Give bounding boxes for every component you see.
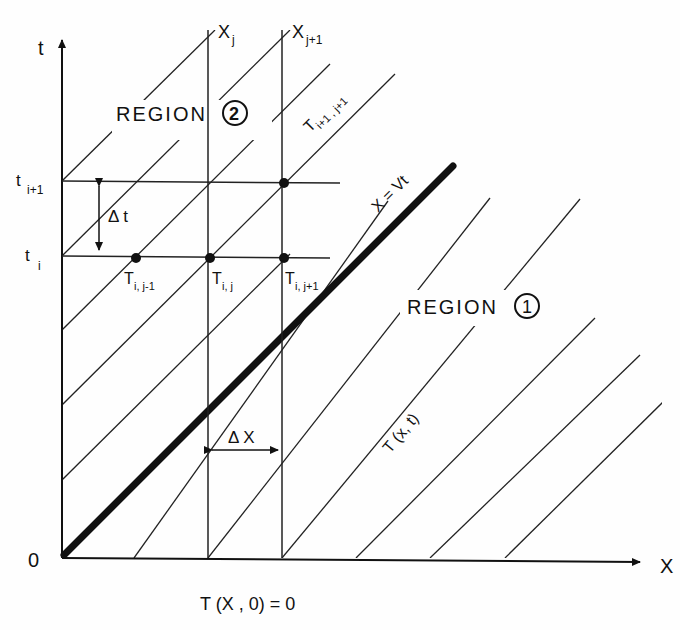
node-i-jm1: [131, 253, 141, 263]
node-ip1-jp1: [279, 178, 289, 188]
ti-label: t: [25, 246, 30, 265]
region2-number: 2: [229, 104, 239, 124]
initial-condition-label: T (X , 0) = 0: [200, 594, 295, 614]
region1-label: REGION: [407, 296, 498, 318]
t-axis-label: t: [38, 37, 44, 59]
region2-label: REGION: [116, 103, 207, 125]
finite-difference-diagram: t X 0 t i+1 t i X j X j+1 REGION 2 REGIO…: [0, 0, 680, 630]
node-label: T: [124, 270, 134, 287]
delta-x-label: Δ X: [228, 428, 254, 447]
ti1-sub: i+1: [27, 183, 44, 197]
origin-label: 0: [28, 549, 39, 571]
node-i-jp1: [279, 253, 289, 263]
x-axis: [62, 558, 640, 562]
xj-label: X: [218, 22, 230, 42]
char-line: [505, 400, 665, 558]
char-line: [62, 30, 290, 256]
node-sub: i, j+1: [295, 280, 319, 292]
delta-t-label: Δ t: [108, 207, 128, 226]
node-i-j: [205, 253, 215, 263]
region1-number: 1: [522, 297, 532, 317]
diagram-svg: t X 0 t i+1 t i X j X j+1 REGION 2 REGIO…: [0, 0, 680, 630]
boundary-label: X = Vt: [368, 172, 412, 216]
node-label: T: [285, 270, 295, 287]
ti-sub: i: [38, 259, 41, 273]
ti1-line: [62, 181, 340, 183]
node-sub: i, j-1: [134, 280, 155, 292]
xj1-label: X: [292, 22, 304, 42]
xj1-sub: j+1: [305, 33, 323, 47]
x-axis-label: X: [660, 555, 673, 577]
xj-sub: j: [231, 33, 235, 47]
char-line: [134, 201, 388, 558]
ti-line: [62, 256, 330, 258]
ti1-label: t: [16, 171, 21, 190]
char-line: [208, 198, 490, 558]
node-label: T: [212, 270, 222, 287]
node-sub: i, j: [222, 280, 233, 292]
